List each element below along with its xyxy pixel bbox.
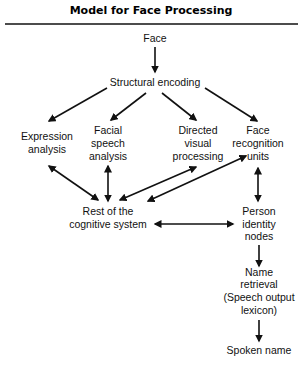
node-face: Face [143, 32, 167, 44]
svg-text:visual: visual [185, 137, 212, 149]
arrow-structural-to-face-recognition [205, 88, 257, 121]
svg-text:recognition: recognition [232, 137, 284, 149]
svg-text:analysis: analysis [89, 150, 127, 162]
svg-text:cognitive system: cognitive system [69, 218, 147, 230]
svg-text:Face: Face [246, 124, 270, 136]
svg-text:Name: Name [245, 266, 273, 278]
svg-text:identity: identity [242, 218, 276, 230]
arrow-face-recognition-rest [148, 156, 246, 201]
svg-text:Facial: Facial [94, 124, 122, 136]
node-expression-analysis: Expression analysis [21, 130, 73, 155]
diagram-title: Model for Face Processing [70, 4, 233, 17]
svg-text:units: units [247, 150, 269, 162]
svg-text:lexicon): lexicon) [241, 304, 277, 316]
svg-text:Spoken name: Spoken name [227, 344, 292, 356]
node-facial-speech-analysis: Facial speech analysis [89, 124, 127, 162]
node-name-retrieval: Name retrieval (Speech output lexicon) [223, 266, 294, 316]
arrow-structural-to-directed-visual [162, 93, 196, 120]
svg-text:speech: speech [91, 137, 125, 149]
svg-text:Structural encoding: Structural encoding [110, 76, 201, 88]
svg-text:(Speech output: (Speech output [223, 291, 294, 303]
svg-text:Face: Face [143, 32, 167, 44]
svg-text:Directed: Directed [178, 124, 217, 136]
arrow-expression-rest [49, 166, 98, 200]
svg-text:retrieval: retrieval [240, 278, 277, 290]
arrow-structural-to-facial-speech [111, 93, 146, 120]
node-directed-visual-processing: Directed visual processing [173, 124, 224, 162]
svg-text:nodes: nodes [245, 230, 274, 242]
node-structural-encoding: Structural encoding [110, 76, 201, 88]
face-processing-diagram: Model for Face Processing Face Structura… [0, 0, 303, 369]
svg-text:Rest of the: Rest of the [83, 205, 134, 217]
node-rest-of-cognitive-system: Rest of the cognitive system [69, 205, 147, 230]
svg-text:Expression: Expression [21, 130, 73, 142]
node-person-identity-nodes: Person identity nodes [242, 205, 276, 242]
svg-text:processing: processing [173, 150, 224, 162]
svg-text:analysis: analysis [28, 143, 66, 155]
arrow-structural-to-expression [49, 88, 107, 121]
svg-text:Person: Person [242, 205, 275, 217]
node-face-recognition-units: Face recognition units [232, 124, 284, 162]
node-spoken-name: Spoken name [227, 344, 292, 356]
